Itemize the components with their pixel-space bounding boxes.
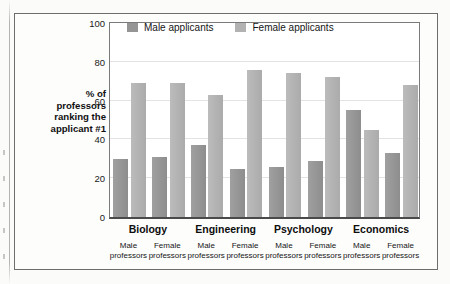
x-axis-group-label: Engineering [195, 223, 256, 235]
x-axis-sub-label: Femaleprofessors [382, 241, 419, 260]
x-axis-sub-label-line-1: Female [149, 241, 186, 251]
legend-item: Male applicants [127, 22, 213, 33]
scan-artifact-speck [3, 176, 5, 181]
bar-male-applicants [152, 157, 167, 217]
bar-female-applicants [170, 83, 185, 217]
legend-swatch-icon [235, 23, 246, 32]
x-axis-sub-label-line-2: professors [382, 251, 419, 261]
bar-female-applicants [403, 85, 418, 217]
scan-artifact-speck [3, 202, 5, 207]
bar-male-applicants [113, 159, 128, 217]
bar-male-applicants [385, 153, 400, 217]
y-axis-title-line-2: professors [21, 100, 106, 112]
x-axis-group-label: Psychology [274, 223, 333, 235]
x-axis-sub-label: Maleprofessors [265, 241, 302, 260]
scanned-page: % of professors ranking the applicant #1… [0, 0, 450, 284]
bar-female-applicants [208, 95, 223, 217]
x-axis-sub-label-line-1: Female [226, 241, 263, 251]
y-axis-tick-label: 80 [94, 56, 105, 67]
x-axis-sub-label-line-1: Male [188, 241, 225, 251]
x-axis-group-label: Biology [129, 223, 168, 235]
bar-female-applicants [131, 83, 146, 217]
legend-swatch-icon [127, 23, 138, 32]
y-axis-title-line-1: % of [21, 88, 106, 100]
y-axis-tick-label: 20 [94, 173, 105, 184]
bar-male-applicants [346, 110, 361, 217]
y-axis-title-line-4: applicant #1 [21, 123, 106, 135]
x-axis-sub-label: Maleprofessors [110, 241, 147, 260]
x-axis-sub-label-line-2: professors [343, 251, 380, 261]
x-axis-sub-label-line-2: professors [304, 251, 341, 261]
y-axis-tick-label: 0 [100, 212, 105, 223]
x-axis-sub-label: Femaleprofessors [226, 241, 263, 260]
x-axis-sub-label-line-1: Female [304, 241, 341, 251]
bar-series-container [110, 23, 419, 217]
legend-label: Male applicants [144, 22, 213, 33]
scan-artifact-speck [3, 254, 5, 259]
y-axis-tick-label: 100 [89, 18, 105, 29]
chart-legend: Male applicantsFemale applicants [127, 22, 334, 33]
plot-area: 020406080100 [109, 22, 420, 219]
bar-male-applicants [308, 161, 323, 217]
legend-item: Female applicants [235, 22, 333, 33]
x-axis-sub-label-line-1: Male [110, 241, 147, 251]
x-axis-sub-label-line-1: Male [343, 241, 380, 251]
scan-artifact-speck [3, 150, 5, 155]
x-axis-sub-label: Femaleprofessors [304, 241, 341, 260]
bar-female-applicants [247, 70, 262, 217]
bar-female-applicants [325, 77, 340, 217]
x-axis-group-labels: BiologyEngineeringPsychologyEconomics [109, 223, 420, 239]
scan-artifact-line [9, 0, 10, 284]
x-axis-sub-label-line-2: professors [110, 251, 147, 261]
scan-artifact-speck [3, 228, 5, 233]
bar-chart: % of professors ranking the applicant #1… [15, 14, 439, 271]
bar-male-applicants [230, 169, 245, 218]
x-axis-sub-label: Maleprofessors [343, 241, 380, 260]
x-axis-sub-label: Femaleprofessors [149, 241, 186, 260]
x-axis-sub-label-line-2: professors [188, 251, 225, 261]
legend-label: Female applicants [252, 22, 333, 33]
x-axis-sub-label: Maleprofessors [188, 241, 225, 260]
bar-male-applicants [191, 145, 206, 217]
x-axis-sub-labels: MaleprofessorsFemaleprofessorsMaleprofes… [109, 241, 420, 265]
y-axis-tick-label: 60 [94, 95, 105, 106]
y-axis-tick-label: 40 [94, 134, 105, 145]
x-axis-sub-label-line-2: professors [149, 251, 186, 261]
x-axis-sub-label-line-1: Male [265, 241, 302, 251]
y-axis-title-line-3: ranking the [21, 111, 106, 123]
x-axis-sub-label-line-2: professors [226, 251, 263, 261]
bar-male-applicants [269, 167, 284, 217]
figure-frame: % of professors ranking the applicant #1… [14, 13, 438, 270]
x-axis-sub-label-line-1: Female [382, 241, 419, 251]
plot-inner: 020406080100 [110, 23, 419, 217]
bar-female-applicants [364, 130, 379, 217]
x-axis-sub-label-line-2: professors [265, 251, 302, 261]
bar-female-applicants [286, 73, 301, 217]
y-axis-title: % of professors ranking the applicant #1 [21, 88, 106, 134]
x-axis-group-label: Economics [353, 223, 409, 235]
